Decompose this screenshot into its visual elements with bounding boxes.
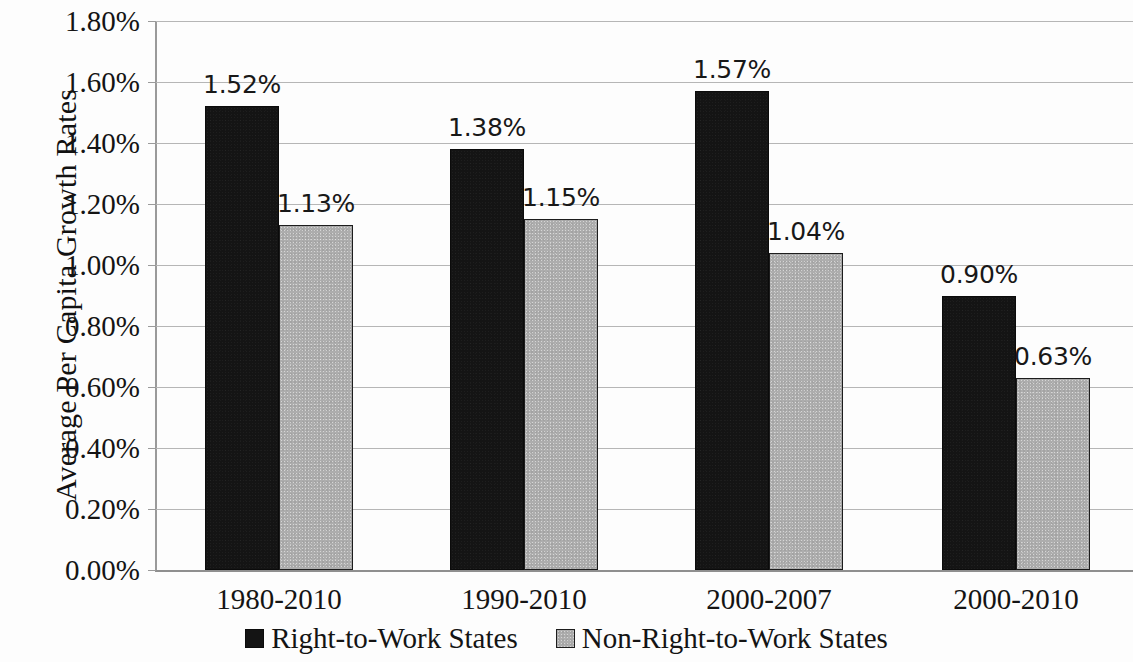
- bar[interactable]: [942, 296, 1016, 571]
- y-axis-tick-label: 0.00%: [65, 554, 140, 587]
- bar-data-label: 1.38%: [448, 113, 526, 142]
- gridline: [155, 570, 1133, 572]
- x-axis-tick-label: 2000-2007: [706, 583, 832, 616]
- legend-item[interactable]: Non-Right-to-Work States: [556, 622, 888, 655]
- bar-data-label: 1.52%: [203, 70, 281, 99]
- y-axis-tick-mark: [148, 82, 156, 83]
- bar-data-label: 1.15%: [522, 183, 600, 212]
- y-axis-tick-label: 0.40%: [65, 432, 140, 465]
- y-axis-tick-mark: [148, 326, 156, 327]
- bar-data-label: 1.57%: [693, 55, 771, 84]
- y-axis-tick-mark: [148, 570, 156, 571]
- y-axis-tick-mark: [148, 143, 156, 144]
- bar[interactable]: [450, 149, 524, 570]
- chart-legend: Right-to-Work StatesNon-Right-to-Work St…: [0, 622, 1133, 655]
- y-axis-tick-mark: [148, 509, 156, 510]
- x-axis-tick-label: 1990-2010: [461, 583, 587, 616]
- plot-area: 1.52%1.13%1.38%1.15%1.57%1.04%0.90%0.63%: [155, 21, 1133, 570]
- bar-data-label: 1.04%: [767, 217, 845, 246]
- y-axis-tick-mark: [148, 204, 156, 205]
- bar-data-label: 0.90%: [940, 260, 1018, 289]
- y-axis-tick-label: 0.80%: [65, 310, 140, 343]
- y-axis-tick-label: 1.20%: [65, 188, 140, 221]
- bar[interactable]: [1016, 378, 1090, 570]
- legend-item-label: Non-Right-to-Work States: [582, 622, 888, 655]
- y-axis-tick-labels: 1.80%1.60%1.40%1.20%1.00%0.80%0.60%0.40%…: [30, 0, 148, 600]
- x-axis-tick-labels: 1980-20101990-20102000-20072000-2010: [155, 583, 1133, 623]
- bar-data-label: 1.13%: [277, 189, 355, 218]
- legend-item-label: Right-to-Work States: [271, 622, 518, 655]
- y-axis-tick-label: 1.80%: [65, 5, 140, 38]
- bar[interactable]: [695, 91, 769, 570]
- gray-square-icon: [556, 629, 575, 648]
- bar[interactable]: [524, 219, 598, 570]
- bar[interactable]: [205, 106, 279, 570]
- x-axis-tick-label: 2000-2010: [953, 583, 1079, 616]
- y-axis-tick-label: 1.40%: [65, 127, 140, 160]
- y-axis-tick-mark: [148, 448, 156, 449]
- legend-item[interactable]: Right-to-Work States: [245, 622, 518, 655]
- y-axis-tick-label: 0.60%: [65, 371, 140, 404]
- y-axis-tick-label: 1.00%: [65, 249, 140, 282]
- y-axis-tick-mark: [148, 387, 156, 388]
- black-square-icon: [245, 629, 264, 648]
- x-axis-tick-label: 1980-2010: [216, 583, 342, 616]
- y-axis-tick-mark: [148, 21, 156, 22]
- bar-chart: Average Per Capita Growth Rates 1.80%1.6…: [0, 0, 1133, 662]
- bars-layer: 1.52%1.13%1.38%1.15%1.57%1.04%0.90%0.63%: [155, 21, 1133, 570]
- y-axis-tick-label: 1.60%: [65, 66, 140, 99]
- y-axis-tick-label: 0.20%: [65, 493, 140, 526]
- bar[interactable]: [769, 253, 843, 570]
- bar[interactable]: [279, 225, 353, 570]
- y-axis-tick-mark: [148, 265, 156, 266]
- bar-data-label: 0.63%: [1014, 342, 1092, 371]
